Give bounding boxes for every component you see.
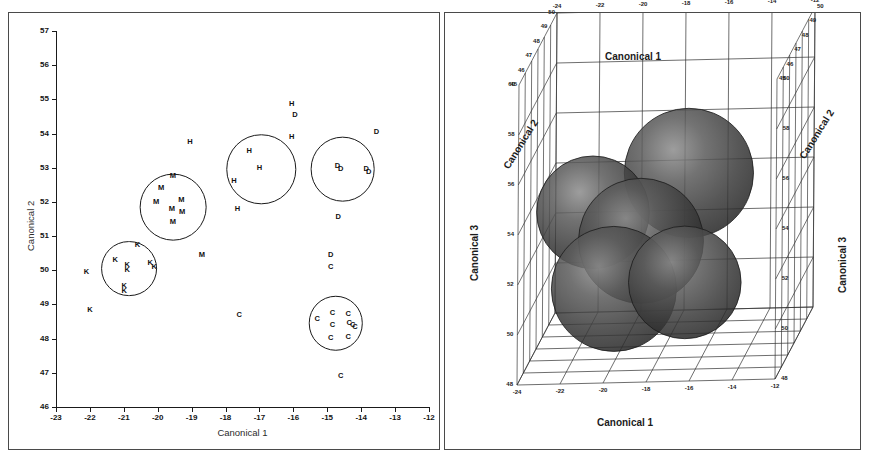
y-tick-left: 49 <box>533 23 547 29</box>
y-tick <box>52 99 56 100</box>
data-point-D: D <box>374 128 379 136</box>
data-point-M: M <box>170 219 176 227</box>
x-tick-label: -20 <box>146 413 170 422</box>
data-point-H: H <box>247 147 252 155</box>
data-point-D: D <box>335 214 340 222</box>
y-tick <box>52 339 56 340</box>
z-tick-left: 48 <box>495 381 513 387</box>
data-point-H: H <box>187 138 192 146</box>
z-tick-left: 52 <box>496 281 514 287</box>
data-point-C: C <box>352 323 357 331</box>
x-tick-bottom: -16 <box>680 385 698 391</box>
y-tick-label: 49 <box>9 299 49 308</box>
y-tick-label: 48 <box>9 334 49 343</box>
y-tick-left: 45 <box>503 81 517 87</box>
data-point-K: K <box>84 268 89 276</box>
data-point-M: M <box>158 184 164 192</box>
data-point-M: M <box>178 196 184 204</box>
x-tick-label: -21 <box>112 413 136 422</box>
data-point-K: K <box>152 263 157 271</box>
x-tick <box>327 408 328 412</box>
z-axis-title-right: Canonical 3 <box>837 237 848 293</box>
x-tick <box>90 408 91 412</box>
data-point-C: C <box>338 372 343 380</box>
y-tick-label: 47 <box>9 368 49 377</box>
x-tick <box>293 408 294 412</box>
canonical-3d-panel: Canonical 1-24-22-20-18-16-14-12Canonica… <box>444 12 861 450</box>
y-tick <box>52 236 56 237</box>
data-point-C: C <box>328 334 333 342</box>
x-tick <box>124 408 125 412</box>
data-point-K: K <box>87 306 92 314</box>
x-tick-label: -18 <box>214 413 238 422</box>
x-tick-label: -17 <box>247 413 271 422</box>
data-point-H: H <box>257 164 262 172</box>
y-tick-label: 57 <box>9 26 49 35</box>
x-tick-label: -13 <box>383 413 407 422</box>
y-tick-right: 48 <box>802 32 816 38</box>
z-axis-title-left: Canonical 3 <box>469 225 480 281</box>
data-point-M: M <box>179 208 185 216</box>
x-tick-label: -15 <box>315 413 339 422</box>
data-point-D: D <box>338 166 343 174</box>
x-axis-title: Canonical 1 <box>211 427 275 438</box>
y-tick-left: 48 <box>526 38 540 44</box>
z-tick-right: 56 <box>782 175 800 181</box>
z-tick-right: 54 <box>782 225 800 231</box>
z-tick-right: 58 <box>783 125 801 131</box>
data-point-H: H <box>231 178 236 186</box>
y-tick-right: 45 <box>779 75 793 81</box>
data-point-D: D <box>292 111 297 119</box>
y-tick-right: 50 <box>817 3 831 9</box>
y-tick-label: 46 <box>9 402 49 411</box>
x-axis-title-top: Canonical 1 <box>605 51 661 62</box>
data-point-C: C <box>330 321 335 329</box>
x-tick-bottom: -20 <box>594 387 612 393</box>
y-axis-line <box>56 31 57 408</box>
data-point-C: C <box>346 310 351 318</box>
y-tick <box>52 270 56 271</box>
data-point-H: H <box>289 133 294 141</box>
z-tick-right: 50 <box>781 325 799 331</box>
data-point-M: M <box>169 205 175 213</box>
x-tick <box>192 408 193 412</box>
y-tick-right: 46 <box>787 61 801 67</box>
data-point-K: K <box>124 267 129 275</box>
y-tick-right: 47 <box>794 46 808 52</box>
x-tick-label: -16 <box>281 413 305 422</box>
y-tick-left: 47 <box>518 52 532 58</box>
z-tick-right: 52 <box>782 275 800 281</box>
y-tick <box>52 31 56 32</box>
canonical-2d-plot: 464748495051525354555657-23-22-21-20-19-… <box>9 13 439 449</box>
data-point-C: C <box>346 333 351 341</box>
y-tick <box>52 373 56 374</box>
z-tick-left: 56 <box>496 181 514 187</box>
x-tick <box>56 408 57 412</box>
canonical-3d-plot: Canonical 1-24-22-20-18-16-14-12Canonica… <box>445 13 860 449</box>
x-axis-line <box>56 407 430 408</box>
y-tick <box>52 65 56 66</box>
data-point-H: H <box>289 101 294 109</box>
y-tick-label: 56 <box>9 60 49 69</box>
x-tick <box>395 408 396 412</box>
x-tick-label: -22 <box>78 413 102 422</box>
x-tick <box>429 408 430 412</box>
z-tick-right: 48 <box>781 375 799 381</box>
y-tick <box>52 168 56 169</box>
z-tick-left: 54 <box>496 231 514 237</box>
x-tick-label: -19 <box>180 413 204 422</box>
z-tick-left: 50 <box>495 331 513 337</box>
x-tick-label: -14 <box>349 413 373 422</box>
x-tick-bottom: -18 <box>637 386 655 392</box>
x-tick-bottom: -14 <box>723 384 741 390</box>
figure-root: 464748495051525354555657-23-22-21-20-19-… <box>0 0 869 460</box>
data-point-M: M <box>199 251 205 259</box>
y-tick-left: 46 <box>511 67 525 73</box>
sphere-lower-right <box>629 226 742 339</box>
x-tick-label: -12 <box>417 413 441 422</box>
data-point-K: K <box>113 256 118 264</box>
x-tick <box>226 408 227 412</box>
x-tick <box>361 408 362 412</box>
y-tick-label: 53 <box>9 163 49 172</box>
data-point-H: H <box>235 205 240 213</box>
